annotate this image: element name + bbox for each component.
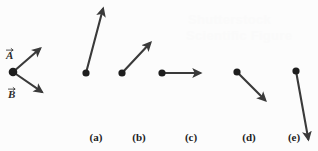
choice-c-origin-dot xyxy=(158,69,165,76)
watermark-line-2: Scientific Figure xyxy=(186,28,292,44)
choice-d-origin-dot xyxy=(233,68,240,75)
choice-e-arrow xyxy=(296,71,308,139)
choice-a-origin-dot xyxy=(82,69,89,76)
choice-a-arrow xyxy=(86,9,103,73)
choice-label-e: (e) xyxy=(280,132,308,143)
choice-e-origin-dot xyxy=(292,67,299,74)
choice-label-c: (c) xyxy=(177,132,205,143)
vector-b-overarrow-icon xyxy=(8,86,16,91)
figure-root: A B (a) (b) (c) (d) (e) Shutterstock Sci… xyxy=(0,0,318,151)
choice-d-arrow xyxy=(237,72,265,100)
watermark-line-1: Shutterstock xyxy=(188,12,271,28)
vector-a-arrow xyxy=(13,49,40,72)
choice-label-a: (a) xyxy=(82,132,110,143)
choice-label-b: (b) xyxy=(125,132,153,143)
vector-a-overarrow-icon xyxy=(6,47,14,52)
choice-b-origin-dot xyxy=(118,69,125,76)
vector-b-label: B xyxy=(8,89,15,100)
choice-label-d: (d) xyxy=(235,132,263,143)
reference-origin-dot xyxy=(9,68,18,77)
choice-b-arrow xyxy=(122,43,150,73)
vector-a-label: A xyxy=(6,50,13,61)
vector-b-arrow xyxy=(13,72,42,92)
